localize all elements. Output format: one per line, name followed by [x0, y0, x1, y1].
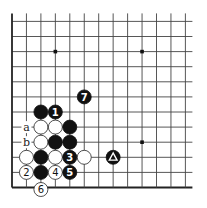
move-number: 5 [66, 167, 73, 178]
black-stone [106, 150, 120, 164]
white-stone-icon [34, 120, 48, 134]
go-board-diagram: ab 1324567 [0, 0, 207, 208]
move-number: 2 [23, 167, 29, 178]
white-stone-move-4: 4 [48, 165, 62, 179]
black-stone-move-3: 3 [63, 150, 77, 164]
star-point-icon [140, 50, 144, 54]
move-number: 4 [52, 167, 58, 178]
white-stone [48, 150, 62, 164]
white-stone-icon [48, 150, 62, 164]
white-stone [19, 150, 33, 164]
black-stone [48, 135, 62, 149]
point-label-a: a [21, 121, 31, 134]
move-number: 1 [52, 107, 59, 118]
move-number: 3 [66, 152, 73, 163]
black-stone-icon [34, 150, 48, 164]
black-stone [63, 120, 77, 134]
white-stone-icon [34, 135, 48, 149]
white-stone-icon [19, 150, 33, 164]
white-stone-icon [77, 150, 91, 164]
white-stone [77, 150, 91, 164]
white-stone-icon [48, 120, 62, 134]
black-stone [34, 150, 48, 164]
white-stone [34, 120, 48, 134]
star-point-icon [140, 140, 144, 144]
black-stone-icon [48, 135, 62, 149]
point-label-text: b [23, 136, 30, 149]
star-point-icon [54, 50, 58, 54]
black-stone-move-5: 5 [63, 165, 77, 179]
black-stone-icon [63, 120, 77, 134]
white-stone-move-2: 2 [19, 165, 33, 179]
black-stone-icon [34, 105, 48, 119]
black-stone-icon [34, 165, 48, 179]
point-label-b: b [21, 136, 31, 149]
black-stone-move-7: 7 [77, 90, 91, 104]
black-stone [63, 135, 77, 149]
black-stone-move-1: 1 [48, 105, 62, 119]
move-number: 7 [81, 92, 88, 103]
white-stone-move-6: 6 [34, 183, 48, 197]
white-stone [48, 120, 62, 134]
black-stone-icon [63, 135, 77, 149]
white-stone [34, 135, 48, 149]
point-label-text: a [23, 121, 30, 134]
move-number: 6 [38, 184, 44, 195]
black-stone [34, 105, 48, 119]
black-stone [34, 165, 48, 179]
